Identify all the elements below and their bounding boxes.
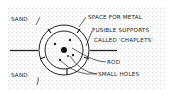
rod-center: [61, 47, 67, 53]
label-rod: ROD: [107, 59, 120, 65]
label-space-for-metal: SPACE FOR METAL: [88, 14, 143, 20]
label-sand-bottom: SAND: [11, 72, 28, 78]
label-chaplets-line1: FUSIBLE SUPPORTS: [92, 27, 149, 33]
label-sand-top: SAND: [11, 16, 28, 22]
label-chaplets-line2: CALLED 'CHAPLETS': [94, 37, 153, 43]
label-small-holes: SMALL HOLES: [98, 71, 139, 77]
mould-cross-section-diagram: SAND SAND SPACE FOR METAL FUSIBLE SUPPOR…: [0, 0, 173, 104]
